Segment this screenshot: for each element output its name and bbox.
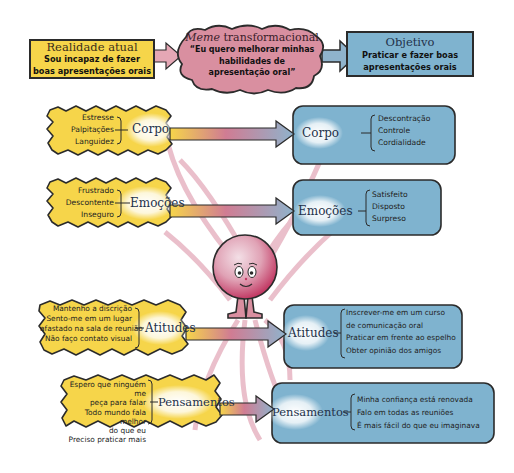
goal-box: Objetivo Praticar e fazer boas apresenta… xyxy=(347,33,473,73)
list-item: Descontente xyxy=(52,197,114,209)
list-item: Mantenho a discrição xyxy=(40,304,132,314)
list-item: É mais fácil do que eu imaginava xyxy=(357,419,480,432)
list-item: afastado na sala de reunião xyxy=(40,324,132,334)
meme-title-italic: Meme xyxy=(185,31,220,44)
list-item: do que eu xyxy=(62,426,146,435)
left-pensamentos-label: Pensamentos xyxy=(158,395,235,409)
list-item: Satisfeito xyxy=(372,189,408,201)
list-item: Preciso praticar mais xyxy=(62,435,146,444)
right-pensamentos-items: Minha confiança está renovada Falo em to… xyxy=(357,393,480,432)
list-item: Inscrever-me em um curso xyxy=(346,307,456,320)
meme-text-3: apresentação oral” xyxy=(182,67,322,79)
right-emocoes-items: Satisfeito Disposto Surpreso xyxy=(372,189,408,225)
right-corpo-items: Descontração Controle Cordialidade xyxy=(378,113,430,149)
meme-text-1: “Eu quero melhorar minhas xyxy=(182,44,322,56)
right-pensamentos-label: Pensamentos xyxy=(272,405,349,419)
left-boxes xyxy=(39,106,222,427)
list-item: Estresse xyxy=(60,112,114,124)
left-atitudes-label: Atitudes xyxy=(145,321,196,335)
left-pensamentos-items: Espero que ninguém me peça para falar To… xyxy=(62,380,146,444)
list-item: Minha confiança está renovada xyxy=(357,393,480,406)
list-item: Todo mundo fala melhor xyxy=(62,408,146,426)
list-item: peça para falar xyxy=(62,398,146,407)
list-item: Cordialidade xyxy=(378,137,430,149)
current-reality-text-2: boas apresentações orais xyxy=(30,66,154,78)
list-item: Frustrado xyxy=(52,185,114,197)
left-emocoes-items: Frustrado Descontente Inseguro xyxy=(52,185,114,221)
left-corpo-label: Corpo xyxy=(132,122,169,136)
meme-box: Meme transformacional “Eu quero melhorar… xyxy=(182,31,322,79)
mascot xyxy=(213,235,277,318)
list-item: Praticar em frente ao espelho xyxy=(346,332,456,345)
meme-text-2: habilidades de xyxy=(182,56,322,68)
left-atitudes-items: Mantenho a discrição Sento-me em um luga… xyxy=(40,304,132,344)
current-reality-text-1: Sou incapaz de fazer xyxy=(30,54,154,66)
list-item: Palpitações xyxy=(60,124,114,136)
current-reality-title: Realidade atual xyxy=(30,41,154,54)
current-reality-box: Realidade atual Sou incapaz de fazer boa… xyxy=(30,40,154,78)
meme-title: Meme transformacional xyxy=(182,31,322,44)
list-item: Surpreso xyxy=(372,213,408,225)
list-item: Inseguro xyxy=(52,209,114,221)
meme-title-rest: transformacional xyxy=(220,31,319,44)
list-item: Descontração xyxy=(378,113,430,125)
list-item: Espero que ninguém me xyxy=(62,380,146,398)
list-item: Languidez xyxy=(60,136,114,148)
goal-text-2: apresentações orais xyxy=(347,61,473,73)
list-item: Disposto xyxy=(372,201,408,213)
list-item: Controle xyxy=(378,125,430,137)
left-corpo-items: Estresse Palpitações Languidez xyxy=(60,112,114,148)
list-item: Sento-me em um lugar xyxy=(40,314,132,324)
list-item: Falo em todas as reuniões xyxy=(357,406,480,419)
left-emocoes-label: Emoções xyxy=(130,196,185,210)
list-item: Obter opinião dos amigos xyxy=(346,345,456,358)
goal-text-1: Praticar e fazer boas xyxy=(347,49,473,61)
right-atitudes-items: Inscrever-me em um curso de comunicação … xyxy=(346,307,456,357)
right-emocoes-label: Emoções xyxy=(298,204,353,218)
right-atitudes-label: Atitudes xyxy=(288,326,339,340)
right-corpo-label: Corpo xyxy=(302,126,339,140)
list-item: Não faço contato visual xyxy=(40,334,132,344)
list-item: de comunicação oral xyxy=(346,320,456,333)
goal-title: Objetivo xyxy=(347,35,473,49)
